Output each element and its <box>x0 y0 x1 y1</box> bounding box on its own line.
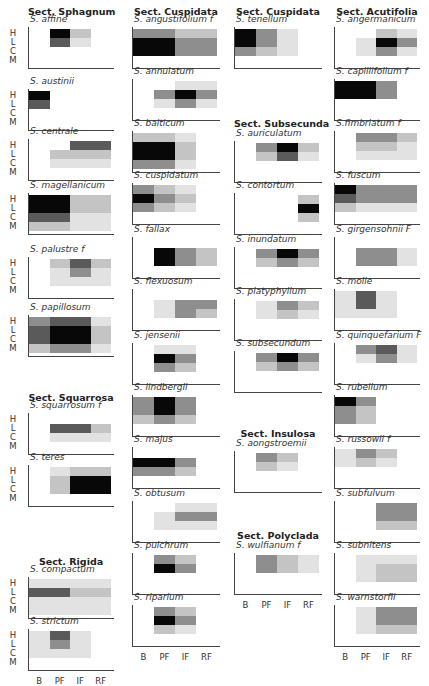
cell-C-IF <box>70 47 91 56</box>
cell-H-B <box>133 397 154 406</box>
cell-H-PF <box>356 345 377 354</box>
heatmap-plot <box>132 131 220 173</box>
cell-L-B <box>133 458 154 467</box>
cell-H-PF <box>50 29 71 38</box>
cell-M-RF <box>298 276 319 285</box>
cell-C-IF <box>376 309 397 318</box>
cell-H-IF <box>376 449 397 458</box>
cell-C-PF <box>356 625 377 634</box>
heatmap-plot <box>234 247 322 289</box>
cell-C-IF <box>175 363 196 372</box>
cell-H-IF <box>70 259 91 268</box>
cell-M-RF <box>196 160 217 169</box>
y-tick-label: M <box>8 286 18 295</box>
cell-H-B <box>133 81 154 90</box>
cell-M-IF <box>277 276 298 285</box>
cell-C-PF <box>50 213 71 222</box>
y-tick-label: M <box>8 658 18 667</box>
cell-C-B <box>335 521 356 530</box>
heatmap-plot <box>132 605 220 647</box>
cell-H-RF <box>397 397 418 406</box>
cell-L-PF <box>50 640 71 649</box>
cell-L-RF <box>397 90 418 99</box>
cell-C-PF <box>356 415 377 424</box>
cell-C-IF <box>376 467 397 476</box>
x-axis <box>132 646 220 647</box>
cell-M-IF <box>376 160 397 169</box>
cell-M-IF <box>70 494 91 503</box>
x-tick-label: B <box>29 676 50 686</box>
cell-M-PF <box>356 212 377 221</box>
cell-L-B <box>133 300 154 309</box>
x-tick-label: RF <box>397 652 418 662</box>
cell-C-PF <box>154 257 175 266</box>
cell-M-PF <box>50 56 71 65</box>
cell-H-PF <box>256 301 277 310</box>
cell-M-IF <box>175 212 196 221</box>
cell-H-B <box>29 579 50 588</box>
cell-C-PF <box>50 597 71 606</box>
cell-L-PF <box>256 204 277 213</box>
cell-M-PF <box>256 328 277 337</box>
x-axis <box>334 646 420 647</box>
cell-M-RF <box>196 424 217 433</box>
cell-C-IF <box>175 257 196 266</box>
cell-L-IF <box>70 100 91 109</box>
cell-L-IF <box>277 564 298 573</box>
cell-M-IF <box>70 222 91 231</box>
cell-M-B <box>335 212 356 221</box>
cell-C-IF <box>277 213 298 222</box>
cell-C-B <box>133 257 154 266</box>
cell-H-RF <box>196 291 217 300</box>
species-panel: S. pulchrum <box>128 540 220 598</box>
x-axis <box>234 594 322 595</box>
cell-L-B <box>235 204 256 213</box>
species-name: S. subfulvum <box>336 488 395 498</box>
cell-L-RF <box>196 248 217 257</box>
cell-L-RF <box>196 512 217 521</box>
heatmap-grid <box>133 397 217 433</box>
cell-H-B <box>29 141 50 150</box>
cell-C-PF <box>256 47 277 56</box>
cell-H-RF <box>91 141 112 150</box>
x-tick-label: RF <box>298 600 319 610</box>
cell-H-B <box>335 449 356 458</box>
cell-M-RF <box>91 442 112 451</box>
heatmap-plot <box>334 553 420 595</box>
cell-M-B <box>133 530 154 539</box>
x-axis <box>234 68 322 69</box>
cell-C-B <box>29 485 50 494</box>
cell-H-IF <box>70 141 91 150</box>
cell-C-PF <box>256 371 277 380</box>
cell-L-PF <box>50 424 71 433</box>
cell-H-PF <box>356 133 377 142</box>
cell-M-IF <box>277 380 298 389</box>
cell-C-PF <box>356 151 377 160</box>
heatmap-grid <box>335 291 417 327</box>
species-name: S. affine <box>30 14 67 24</box>
cell-M-RF <box>397 634 418 643</box>
heatmap-grid <box>335 239 417 275</box>
heatmap-plot <box>234 351 322 393</box>
cell-M-RF <box>397 476 418 485</box>
cell-C-RF <box>91 433 112 442</box>
cell-L-IF <box>175 142 196 151</box>
cell-C-IF <box>376 47 397 56</box>
heatmap-grid <box>29 317 111 353</box>
cell-C-IF <box>277 161 298 170</box>
cell-L-PF <box>154 38 175 47</box>
cell-H-RF <box>91 91 112 100</box>
cell-L-RF <box>196 458 217 467</box>
cell-M-B <box>335 424 356 433</box>
heatmap-plot <box>28 27 114 69</box>
species-name: S.fimbriatum f <box>336 118 401 128</box>
species-panel: S. inundatum <box>230 234 322 292</box>
cell-L-RF <box>298 258 319 267</box>
cell-L-IF <box>277 310 298 319</box>
species-panel: S. lindbergii <box>128 382 220 440</box>
heatmap-grid <box>335 185 417 221</box>
x-tick-labels: BPFIFRF <box>335 652 417 662</box>
x-axis <box>234 392 322 393</box>
heatmap-grid <box>29 467 111 503</box>
cell-M-RF <box>91 658 112 667</box>
